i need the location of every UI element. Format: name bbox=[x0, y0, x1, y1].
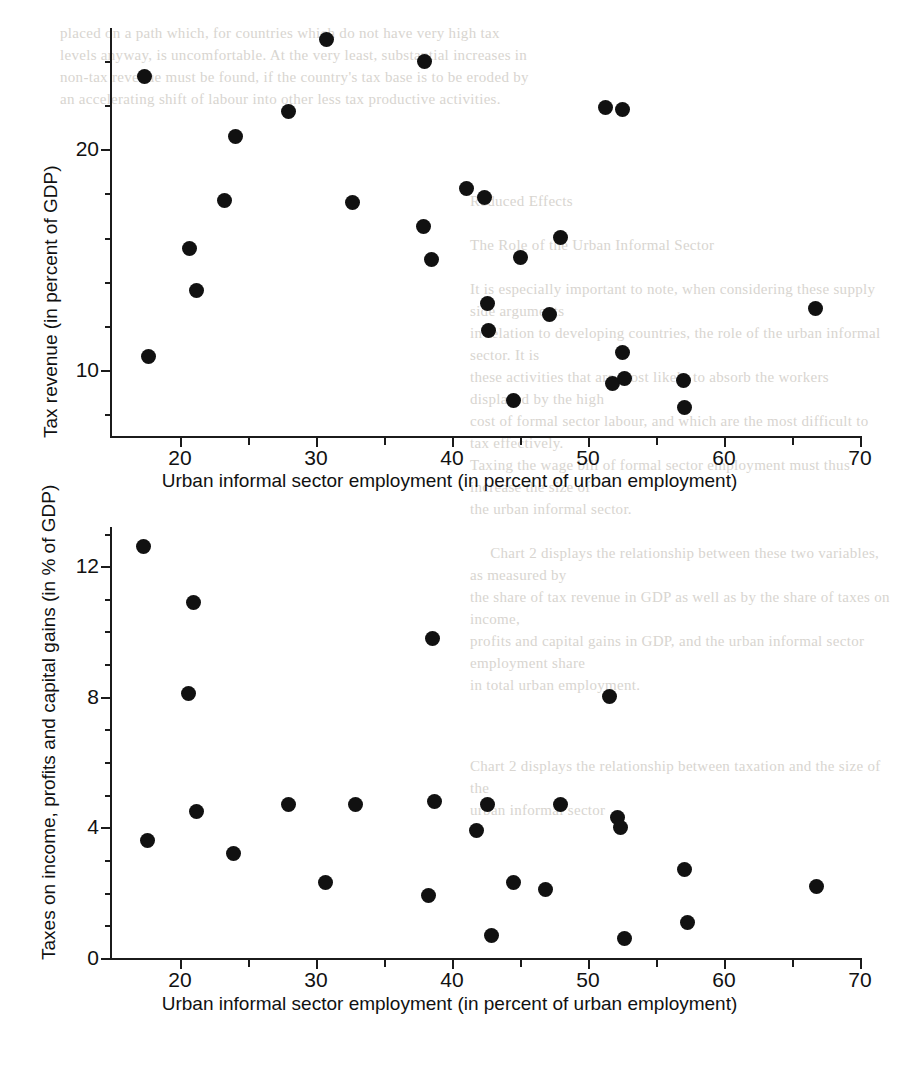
y-axis-title-bottom: Taxes on income, profits and capital gai… bbox=[38, 485, 60, 960]
data-point bbox=[281, 797, 296, 812]
x-axis-label-top: 40 bbox=[440, 446, 463, 470]
data-point bbox=[480, 296, 495, 311]
data-point bbox=[424, 252, 439, 267]
x-axis-tick-minor-bottom bbox=[656, 958, 658, 967]
x-axis-label-top: 60 bbox=[712, 446, 735, 470]
x-axis-title-top: Urban informal sector employment (in per… bbox=[0, 470, 899, 492]
y-axis-tick-minor-bottom bbox=[105, 729, 112, 731]
data-point bbox=[598, 100, 613, 115]
x-axis-label-bottom: 40 bbox=[440, 968, 463, 992]
data-point bbox=[459, 181, 474, 196]
y-axis-tick-minor-top bbox=[105, 61, 112, 63]
data-point bbox=[427, 794, 442, 809]
data-point bbox=[676, 373, 691, 388]
x-axis-tick-minor-bottom bbox=[384, 958, 386, 967]
data-point bbox=[809, 879, 824, 894]
y-axis-label-bottom: 8 bbox=[87, 685, 99, 709]
y-axis-tick-major-bottom bbox=[101, 827, 112, 829]
data-point bbox=[417, 54, 432, 69]
data-point bbox=[217, 193, 232, 208]
data-point bbox=[421, 888, 436, 903]
scatter-chart-income-taxes: Taxes on income, profits and capital gai… bbox=[0, 505, 899, 1067]
scatter-chart-tax-revenue: Tax revenue (in percent of GDP) 10202030… bbox=[0, 0, 899, 505]
data-point bbox=[617, 371, 632, 386]
x-axis-label-bottom: 70 bbox=[848, 968, 871, 992]
data-point bbox=[506, 875, 521, 890]
data-point bbox=[484, 928, 499, 943]
data-point bbox=[189, 283, 204, 298]
x-axis-tick-minor-top bbox=[520, 436, 522, 445]
y-axis-title-top: Tax revenue (in percent of GDP) bbox=[40, 166, 62, 438]
x-axis-label-bottom: 60 bbox=[712, 968, 735, 992]
x-axis-tick-minor-top bbox=[384, 436, 386, 445]
y-axis-tick-minor-bottom bbox=[105, 762, 112, 764]
x-axis-tick-minor-top bbox=[248, 436, 250, 445]
data-point bbox=[538, 882, 553, 897]
x-axis-label-top: 50 bbox=[576, 446, 599, 470]
data-point bbox=[141, 349, 156, 364]
y-axis-tick-major-top bbox=[101, 370, 112, 372]
data-point bbox=[553, 797, 568, 812]
data-point bbox=[137, 69, 152, 84]
data-point bbox=[513, 250, 528, 265]
data-point bbox=[506, 393, 521, 408]
y-axis-tick-minor-top bbox=[105, 282, 112, 284]
data-point bbox=[189, 804, 204, 819]
x-axis-tick-minor-top bbox=[792, 436, 794, 445]
x-axis-tick-minor-bottom bbox=[248, 958, 250, 967]
figure-page: Tax revenue (in percent of GDP) 10202030… bbox=[0, 0, 899, 1067]
data-point bbox=[319, 32, 334, 47]
data-point bbox=[480, 797, 495, 812]
data-point bbox=[281, 104, 296, 119]
y-axis-tick-major-bottom bbox=[101, 566, 112, 568]
data-point bbox=[542, 307, 557, 322]
data-point bbox=[469, 823, 484, 838]
x-axis-title-bottom: Urban informal sector employment (in per… bbox=[0, 993, 899, 1015]
data-point bbox=[136, 539, 151, 554]
x-axis-label-bottom: 20 bbox=[168, 968, 191, 992]
y-axis-tick-minor-bottom bbox=[105, 860, 112, 862]
data-point bbox=[416, 219, 431, 234]
x-axis-label-top: 70 bbox=[848, 446, 871, 470]
x-axis-tick-minor-bottom bbox=[520, 958, 522, 967]
data-point bbox=[181, 686, 196, 701]
x-axis-label-bottom: 50 bbox=[576, 968, 599, 992]
data-point bbox=[348, 797, 363, 812]
data-point bbox=[226, 846, 241, 861]
data-point bbox=[318, 875, 333, 890]
x-axis-label-top: 30 bbox=[304, 446, 327, 470]
y-axis-tick-minor-bottom bbox=[105, 795, 112, 797]
data-point bbox=[182, 241, 197, 256]
data-point bbox=[477, 190, 492, 205]
data-point bbox=[615, 102, 630, 117]
y-axis-tick-minor-top bbox=[105, 105, 112, 107]
data-point bbox=[617, 931, 632, 946]
y-axis-tick-minor-bottom bbox=[105, 925, 112, 927]
y-axis-label-bottom: 0 bbox=[87, 946, 99, 970]
data-point bbox=[228, 129, 243, 144]
y-axis-tick-minor-top bbox=[105, 193, 112, 195]
y-axis-tick-minor-bottom bbox=[105, 534, 112, 536]
plot-area-top: Tax revenue (in percent of GDP) 10202030… bbox=[110, 28, 860, 438]
y-axis-tick-minor-top bbox=[105, 414, 112, 416]
plot-area-bottom: Taxes on income, profits and capital gai… bbox=[110, 527, 860, 960]
x-axis-label-top: 20 bbox=[168, 446, 191, 470]
data-point bbox=[345, 195, 360, 210]
x-axis-label-bottom: 30 bbox=[304, 968, 327, 992]
y-axis-label-bottom: 4 bbox=[87, 815, 99, 839]
data-point bbox=[602, 689, 617, 704]
x-axis-tick-minor-top bbox=[656, 436, 658, 445]
y-axis-tick-minor-bottom bbox=[105, 631, 112, 633]
data-point bbox=[425, 631, 440, 646]
y-axis-tick-minor-top bbox=[105, 326, 112, 328]
data-point bbox=[613, 820, 628, 835]
y-axis-label-top: 10 bbox=[76, 358, 99, 382]
data-point bbox=[677, 862, 692, 877]
data-point bbox=[186, 595, 201, 610]
y-axis-label-bottom: 12 bbox=[76, 554, 99, 578]
y-axis-tick-minor-bottom bbox=[105, 599, 112, 601]
data-point bbox=[140, 833, 155, 848]
data-point bbox=[553, 230, 568, 245]
x-axis-tick-minor-bottom bbox=[792, 958, 794, 967]
y-axis-tick-minor-bottom bbox=[105, 893, 112, 895]
